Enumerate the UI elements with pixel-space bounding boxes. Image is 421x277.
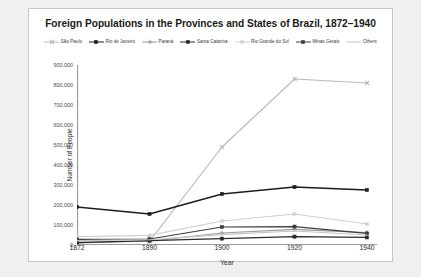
legend-marker-icon [238,38,246,46]
legend-swatch-santa-catarina [180,39,195,45]
legend-item-s-o-paulo[interactable]: São Paulo [44,39,82,45]
legend-swatch-rio-grande-do-sul [235,39,250,45]
x-axis-tick: 1900 [214,244,229,251]
legend-swatch-s-o-paulo [44,39,59,45]
data-point-marker [293,225,296,228]
legend-marker-icon [299,38,307,46]
chart-card: Foreign Populations in the Provinces and… [28,8,393,262]
data-point-marker [220,192,223,195]
legend-label: Rio Grande do Sul [251,40,289,45]
legend-item-rio-de-janeiro[interactable]: Rio de Janeiro [89,39,135,45]
series-s-o-paulo [77,77,369,244]
legend-item-others[interactable]: Others [346,39,376,45]
y-axis-tick: 800,000 [54,82,74,88]
data-point-marker [365,188,368,191]
y-axis-tick: 400,000 [54,162,74,168]
legend-marker-icon [92,38,100,46]
legend-swatch-minas-gerais [296,39,311,45]
data-point-marker [186,40,189,43]
y-axis-tick: 900,000 [54,62,74,68]
legend-label: Others [363,40,377,45]
legend-label: São Paulo [61,40,82,45]
data-point-marker [365,222,370,227]
chart-title: Foreign Populations in the Provinces and… [29,18,392,29]
legend-marker-icon [184,38,192,46]
legend-label: Rio de Janeiro [105,40,135,45]
legend-swatch-paran [142,39,157,45]
legend-label: Paraná [159,40,174,45]
x-axis-tick: 1872 [69,244,84,251]
y-axis-tick: 100,000 [54,222,74,228]
y-axis-tick: 300,000 [54,182,74,188]
y-axis-tick: 600,000 [54,122,74,128]
plot-area: Number of People Year 0100,000200,000300… [77,65,377,245]
legend-label: Minas Gerais [312,40,339,45]
data-point-marker [147,40,152,45]
data-point-marker [220,219,225,224]
legend-label: Santa Catarina [197,40,228,45]
legend-marker-icon [48,38,56,46]
data-point-marker [95,40,98,43]
legend-marker-icon [146,38,154,46]
legend-item-paran[interactable]: Paraná [142,39,173,45]
legend-item-santa-catarina[interactable]: Santa Catarina [180,39,227,45]
data-point-marker [147,233,152,238]
data-point-marker [293,235,296,238]
data-point-marker [302,40,305,43]
chart-svg [77,65,377,245]
data-point-marker [240,40,245,45]
x-axis-tick: 1920 [287,244,302,251]
y-axis-tick: 500,000 [54,142,74,148]
data-point-marker [220,225,223,228]
data-point-marker [77,205,79,208]
series-rio-de-janeiro [77,185,369,215]
data-point-marker [293,185,296,188]
data-point-marker [220,145,224,149]
y-axis-tick: 200,000 [54,202,74,208]
y-axis-label: Number of People [66,128,73,181]
x-axis-label: Year [77,259,377,266]
series-line [77,187,367,214]
legend-swatch-others [346,39,361,45]
data-point-marker [365,236,368,239]
legend-swatch-rio-de-janeiro [89,39,104,45]
x-axis-tick: 1890 [142,244,157,251]
data-point-marker [50,40,54,44]
legend-item-rio-grande-do-sul[interactable]: Rio Grande do Sul [235,39,289,45]
legend-item-minas-gerais[interactable]: Minas Gerais [296,39,340,45]
y-axis-tick: 700,000 [54,102,74,108]
data-point-marker [292,212,297,217]
data-point-marker [148,212,151,215]
x-axis-tick: 1940 [359,244,374,251]
data-point-marker [220,237,223,240]
chart-legend: São PauloRio de JaneiroParanáSanta Catar… [29,39,392,45]
